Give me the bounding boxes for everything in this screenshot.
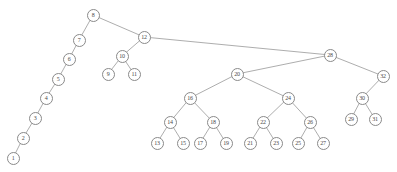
tree-node-24[interactable]: 24 xyxy=(282,92,295,105)
tree-node-11[interactable]: 11 xyxy=(128,68,141,81)
tree-node-4[interactable]: 4 xyxy=(40,92,53,105)
tree-node-8[interactable]: 8 xyxy=(87,9,100,22)
tree-node-12[interactable]: 12 xyxy=(138,31,151,44)
tree-node-26[interactable]: 26 xyxy=(304,116,317,129)
tree-node-label: 15 xyxy=(180,140,185,146)
tree-node-10[interactable]: 10 xyxy=(116,50,129,63)
tree-node-30[interactable]: 30 xyxy=(356,92,369,105)
binary-search-tree-figure: 8765432112109112820161413151817192422212… xyxy=(0,0,397,172)
tree-node-label: 23 xyxy=(273,140,278,146)
tree-node-label: 29 xyxy=(348,116,353,122)
tree-node-27[interactable]: 27 xyxy=(317,137,330,150)
tree-node-5[interactable]: 5 xyxy=(52,73,65,86)
tree-node-label: 14 xyxy=(167,119,172,125)
tree-node-13[interactable]: 13 xyxy=(151,137,164,150)
tree-node-28[interactable]: 28 xyxy=(324,49,337,62)
tree-node-label: 4 xyxy=(45,95,48,101)
tree-node-label: 30 xyxy=(359,95,364,101)
tree-node-6[interactable]: 6 xyxy=(63,53,76,66)
tree-node-label: 3 xyxy=(34,115,37,121)
tree-node-3[interactable]: 3 xyxy=(29,112,42,125)
tree-node-23[interactable]: 23 xyxy=(270,137,283,150)
tree-node-label: 25 xyxy=(295,140,300,146)
tree-node-label: 8 xyxy=(92,12,95,18)
tree-node-layer: 8765432112109112820161413151817192422212… xyxy=(0,0,397,172)
tree-node-label: 24 xyxy=(285,95,290,101)
tree-node-19[interactable]: 19 xyxy=(220,137,233,150)
tree-node-label: 31 xyxy=(372,116,377,122)
tree-node-label: 22 xyxy=(260,119,265,125)
tree-node-label: 10 xyxy=(119,53,124,59)
tree-node-32[interactable]: 32 xyxy=(377,70,390,83)
tree-node-31[interactable]: 31 xyxy=(369,113,382,126)
tree-node-label: 11 xyxy=(131,71,136,77)
tree-node-label: 13 xyxy=(154,140,159,146)
tree-node-label: 20 xyxy=(234,71,239,77)
tree-node-16[interactable]: 16 xyxy=(184,92,197,105)
tree-node-label: 7 xyxy=(78,37,81,43)
tree-node-15[interactable]: 15 xyxy=(177,137,190,150)
tree-node-2[interactable]: 2 xyxy=(17,132,30,145)
tree-node-label: 28 xyxy=(327,52,332,58)
tree-node-label: 12 xyxy=(141,34,146,40)
tree-node-9[interactable]: 9 xyxy=(102,68,115,81)
tree-node-label: 17 xyxy=(197,140,202,146)
tree-node-label: 1 xyxy=(12,155,15,161)
tree-node-label: 16 xyxy=(187,95,192,101)
tree-node-7[interactable]: 7 xyxy=(73,34,86,47)
tree-node-29[interactable]: 29 xyxy=(345,113,358,126)
tree-node-label: 26 xyxy=(307,119,312,125)
tree-node-label: 6 xyxy=(68,56,71,62)
tree-node-25[interactable]: 25 xyxy=(292,137,305,150)
tree-node-20[interactable]: 20 xyxy=(231,68,244,81)
tree-node-label: 32 xyxy=(380,73,385,79)
tree-node-label: 2 xyxy=(22,135,25,141)
tree-node-label: 19 xyxy=(223,140,228,146)
tree-node-label: 27 xyxy=(320,140,325,146)
tree-node-1[interactable]: 1 xyxy=(7,152,20,165)
tree-node-label: 5 xyxy=(57,76,60,82)
tree-node-label: 9 xyxy=(107,71,110,77)
tree-node-14[interactable]: 14 xyxy=(164,116,177,129)
tree-node-17[interactable]: 17 xyxy=(194,137,207,150)
tree-node-22[interactable]: 22 xyxy=(257,116,270,129)
tree-node-18[interactable]: 18 xyxy=(207,116,220,129)
tree-node-label: 18 xyxy=(210,119,215,125)
tree-node-label: 21 xyxy=(247,140,252,146)
tree-node-21[interactable]: 21 xyxy=(244,137,257,150)
